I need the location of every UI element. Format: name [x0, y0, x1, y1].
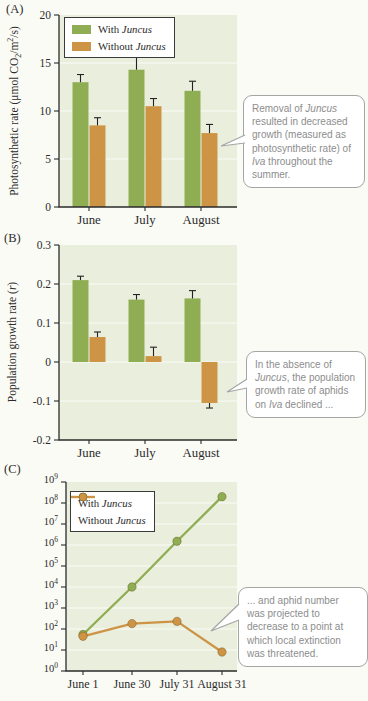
- legend-line-marker-icon: [71, 492, 95, 502]
- panel-a-y-axis-title: Photosynthetic rate (μmol CO2/m2/s): [7, 26, 23, 196]
- y-tick-label: 10: [40, 105, 52, 117]
- data-point-marker: [128, 583, 136, 591]
- data-point-marker: [173, 617, 181, 625]
- panel-c-callout: ... and aphid number was projected to de…: [238, 587, 368, 667]
- legend-dot: [79, 493, 87, 501]
- log-tick-label-10e0: 100: [28, 664, 58, 675]
- x-tick-label: July 31: [159, 677, 194, 691]
- y-tick-label: 20: [40, 9, 52, 21]
- log-tick-label-10e7: 107: [28, 517, 58, 528]
- panel-b-callout-text: In the absence of Juncus, the population…: [255, 359, 355, 410]
- panel-a-label: (A): [6, 2, 23, 17]
- panel-a: 05101520JuneJulyAugust (A) Photosyntheti…: [0, 0, 368, 230]
- bar-without-juncus-august: [202, 362, 218, 403]
- y-tick-label: 0.3: [37, 239, 52, 251]
- y-tick-label: 0.1: [37, 317, 52, 329]
- bar-without-juncus-july: [146, 106, 162, 207]
- data-point-marker: [79, 632, 87, 640]
- legend-item-without-juncus: Without Juncus: [78, 514, 146, 526]
- log-tick-label-10e4: 104: [28, 580, 58, 591]
- legend-item-with-juncus: With Juncus: [72, 23, 166, 35]
- panel-a-callout-tail: [221, 134, 245, 150]
- y-tick-label: -0.1: [33, 395, 51, 407]
- log-tick-label-10e1: 101: [28, 643, 58, 654]
- x-tick-label: August 31: [197, 677, 247, 691]
- panel-c-callout-tail: [211, 603, 239, 633]
- log-tick-label-10e2: 102: [28, 622, 58, 633]
- panel-c: June 1June 30July 31August 31 (C) 109108…: [0, 460, 368, 701]
- panel-b-callout: In the absence of Juncus, the population…: [246, 351, 366, 418]
- bar-with-juncus-june: [73, 82, 89, 207]
- legend-swatch: [72, 42, 91, 51]
- panel-a-callout: Removal of Juncus resulted in decreased …: [243, 95, 365, 188]
- panel-c-label: (C): [4, 462, 21, 477]
- log-tick-label-10e3: 103: [28, 601, 58, 612]
- bar-with-juncus-july: [129, 70, 145, 207]
- bar-without-juncus-august: [202, 133, 218, 207]
- x-tick-label: June 30: [114, 677, 151, 691]
- panel-a-callout-text: Removal of Juncus resulted in decreased …: [252, 103, 351, 180]
- log-tick-label-10e6: 106: [28, 538, 58, 549]
- y-tick-label: 15: [40, 57, 52, 69]
- data-point-marker: [128, 619, 136, 627]
- x-tick-label: July: [134, 213, 156, 227]
- bar-with-juncus-august: [185, 298, 201, 362]
- y-tick-label: 0.2: [37, 278, 52, 290]
- figure-page: 05101520JuneJulyAugust (A) Photosyntheti…: [0, 0, 368, 701]
- panel-b: 0.30.20.10-0.1-0.2JuneJulyAugust (B) Pop…: [0, 230, 368, 460]
- legend-swatch: [72, 25, 91, 34]
- panel-c-legend: With JuncusWithout Juncus: [70, 491, 155, 532]
- panel-b-y-axis-title: Population growth rate (r): [7, 282, 19, 402]
- log-tick-label-10e5: 105: [28, 559, 58, 570]
- y-tick-label: 0: [45, 201, 51, 213]
- y-tick-label: -0.2: [33, 434, 51, 446]
- data-point-marker: [218, 492, 226, 500]
- x-tick-label: July: [134, 446, 156, 460]
- legend-label: Without Juncus: [98, 40, 166, 52]
- log-tick-label-10e9: 109: [28, 475, 58, 486]
- panel-c-callout-text: ... and aphid number was projected to de…: [247, 595, 343, 659]
- bar-with-juncus-august: [185, 91, 201, 207]
- legend-label: With Juncus: [98, 23, 152, 35]
- panel-b-label: (B): [4, 231, 21, 246]
- bar-with-juncus-july: [129, 300, 145, 362]
- data-point-marker: [218, 648, 226, 656]
- bar-without-juncus-july: [146, 356, 162, 362]
- panel-b-chart: 0.30.20.10-0.1-0.2JuneJulyAugust: [0, 230, 368, 460]
- x-tick-label: August: [183, 446, 220, 460]
- x-tick-label: June: [77, 213, 101, 227]
- bar-with-juncus-june: [73, 280, 89, 362]
- bar-without-juncus-june: [90, 125, 106, 207]
- legend-label: Without Juncus: [78, 514, 146, 526]
- panel-b-callout-tail: [227, 378, 247, 395]
- legend-item-without-juncus: Without Juncus: [72, 40, 166, 52]
- bar-without-juncus-june: [90, 337, 106, 362]
- x-tick-label: June 1: [68, 677, 99, 691]
- y-tick-label: 5: [45, 153, 51, 165]
- y-tick-label: 0: [45, 356, 51, 368]
- x-tick-label: June: [77, 446, 101, 460]
- panel-a-legend: With JuncusWithout Juncus: [64, 17, 175, 58]
- log-tick-label-10e8: 108: [28, 496, 58, 507]
- data-point-marker: [173, 537, 181, 545]
- x-tick-label: August: [183, 213, 220, 227]
